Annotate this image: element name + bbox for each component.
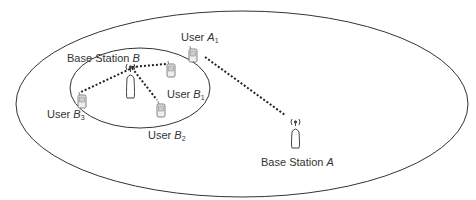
user-b1-phone-icon [167,61,175,77]
link-b-b1 [132,64,166,67]
user-b2-phone-icon [157,101,165,117]
network-diagram [0,0,476,200]
label-user-a1: User A1 [181,31,219,47]
link-a-a1 [205,57,285,115]
label-user-b1: User B1 [167,88,205,104]
base-station-a-icon [291,119,300,148]
user-b3-phone-icon [78,92,86,108]
label-user-b2: User B2 [148,129,186,145]
link-b-b3 [81,69,130,92]
link-b-b2 [132,68,157,100]
label-base-station-a: Base Station A [261,156,334,168]
label-base-station-b: Base Station B [67,52,140,64]
wireless-links [81,57,285,115]
label-user-b3: User B3 [47,108,85,124]
user-a1-phone-icon [189,46,197,62]
